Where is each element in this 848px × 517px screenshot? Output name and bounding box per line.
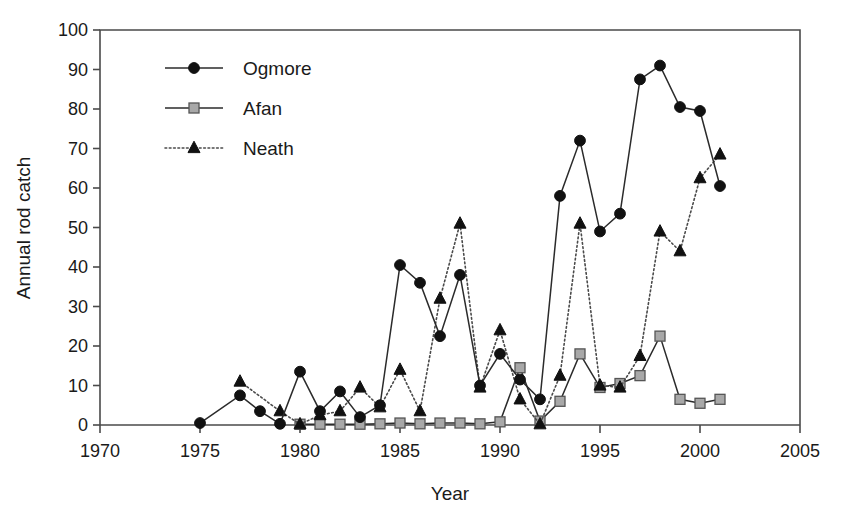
y-tick-label: 70 <box>68 139 88 159</box>
data-point-circle <box>635 74 646 85</box>
data-point-circle <box>255 406 266 417</box>
data-point-square <box>495 417 505 427</box>
data-point-circle <box>435 331 446 342</box>
data-point-circle <box>595 226 606 237</box>
data-point-circle <box>575 135 586 146</box>
data-point-circle <box>295 366 306 377</box>
x-tick-label: 1970 <box>80 441 120 461</box>
y-tick-label: 0 <box>78 415 88 435</box>
line-chart-svg: 0102030405060708090100 19701975198019851… <box>0 0 848 517</box>
data-point-circle <box>235 390 246 401</box>
data-point-square <box>715 394 725 404</box>
data-point-circle <box>655 60 666 71</box>
x-tick-label: 1975 <box>180 441 220 461</box>
data-point-circle <box>315 406 326 417</box>
data-point-square <box>189 103 199 113</box>
data-point-square <box>515 363 525 373</box>
data-point-circle <box>355 412 366 423</box>
x-tick-label: 2000 <box>680 441 720 461</box>
data-point-circle <box>675 102 686 113</box>
data-point-circle <box>275 418 286 429</box>
data-point-square <box>375 419 385 429</box>
y-tick-label: 50 <box>68 218 88 238</box>
y-tick-label: 60 <box>68 178 88 198</box>
y-tick-label: 100 <box>58 20 88 40</box>
data-point-circle <box>335 386 346 397</box>
data-point-square <box>435 418 445 428</box>
legend-label: Afan <box>243 98 282 119</box>
data-point-square <box>555 396 565 406</box>
data-point-circle <box>695 106 706 117</box>
data-point-square <box>575 349 585 359</box>
data-point-circle <box>515 374 526 385</box>
data-point-square <box>415 419 425 429</box>
data-point-circle <box>535 394 546 405</box>
data-point-circle <box>715 181 726 192</box>
data-point-circle <box>195 418 206 429</box>
data-point-circle <box>475 380 486 391</box>
y-tick-label: 30 <box>68 297 88 317</box>
data-point-square <box>395 418 405 428</box>
y-tick-label: 40 <box>68 257 88 277</box>
x-tick-label: 1985 <box>380 441 420 461</box>
data-point-circle <box>375 400 386 411</box>
x-tick-label: 2005 <box>780 441 820 461</box>
data-point-square <box>635 371 645 381</box>
x-tick-label: 1990 <box>480 441 520 461</box>
x-tick-label: 1980 <box>280 441 320 461</box>
data-point-square <box>455 418 465 428</box>
data-point-square <box>335 419 345 429</box>
data-point-square <box>475 419 485 429</box>
legend-label: Ogmore <box>243 58 312 79</box>
data-point-circle <box>555 191 566 202</box>
data-point-circle <box>189 63 200 74</box>
x-tick-label: 1995 <box>580 441 620 461</box>
data-point-circle <box>455 270 466 281</box>
legend-label: Neath <box>243 138 294 159</box>
chart-background <box>0 0 848 517</box>
data-point-circle <box>495 349 506 360</box>
data-point-square <box>655 331 665 341</box>
data-point-square <box>675 394 685 404</box>
y-axis-title: Annual rod catch <box>13 157 34 300</box>
data-point-square <box>695 398 705 408</box>
data-point-circle <box>395 260 406 271</box>
data-point-circle <box>615 208 626 219</box>
y-tick-label: 20 <box>68 336 88 356</box>
chart-figure: 0102030405060708090100 19701975198019851… <box>0 0 848 517</box>
data-point-circle <box>415 277 426 288</box>
y-tick-label: 90 <box>68 60 88 80</box>
y-tick-label: 10 <box>68 376 88 396</box>
x-axis-title: Year <box>431 483 470 504</box>
y-tick-label: 80 <box>68 99 88 119</box>
data-point-square <box>315 419 325 429</box>
